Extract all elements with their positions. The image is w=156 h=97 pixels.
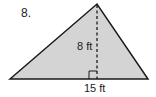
height-label: 8 ft (77, 41, 92, 52)
problem-number: 8. (21, 7, 31, 19)
base-label: 15 ft (84, 83, 105, 94)
